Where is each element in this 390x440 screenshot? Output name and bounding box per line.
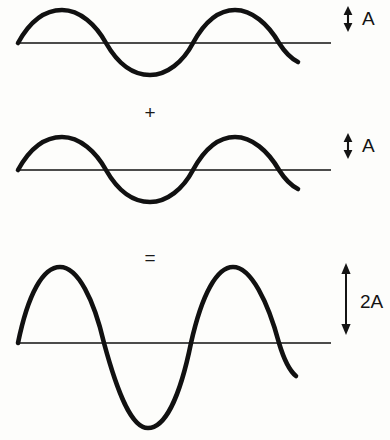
wave-group-2 (18, 133, 352, 202)
amplitude-label-result: 2A (360, 292, 383, 311)
wave-interference-figure (0, 0, 390, 440)
operator-equals: = (130, 248, 170, 267)
amplitude-label-wave1: A (362, 9, 375, 28)
amplitude-label-wave2: A (362, 136, 375, 155)
result-curve (18, 267, 296, 428)
result-amplitude-arrow (341, 263, 350, 335)
wave2-amplitude-arrow (344, 133, 353, 159)
wave-group-1 (18, 6, 352, 75)
wave-group-result (18, 263, 351, 428)
operator-plus: + (130, 103, 170, 122)
wave1-amplitude-arrow (344, 6, 353, 32)
